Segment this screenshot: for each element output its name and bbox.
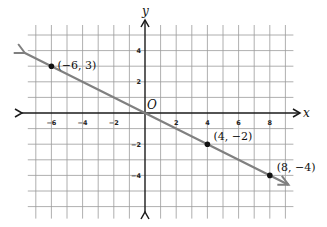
x-tick-label: −4 bbox=[78, 119, 88, 127]
x-tick-label: 6 bbox=[236, 119, 241, 127]
data-point bbox=[205, 141, 211, 147]
data-point bbox=[49, 63, 55, 69]
y-tick-label: 2 bbox=[136, 78, 141, 86]
plotted-line bbox=[25, 53, 289, 185]
x-tick-label: 4 bbox=[205, 119, 210, 127]
y-tick-label: −4 bbox=[131, 172, 141, 180]
y-tick-label: −2 bbox=[131, 141, 141, 149]
coordinate-graph: −6−4−2246842−2−4 (−6, 3)(4, −2)(8, −4) x… bbox=[0, 0, 327, 227]
data-point-label: (4, −2) bbox=[213, 130, 252, 143]
x-tick-label: 2 bbox=[174, 119, 179, 127]
x-axis-label: x bbox=[303, 106, 310, 120]
x-tick-label: −6 bbox=[46, 119, 56, 127]
origin-label: O bbox=[147, 98, 157, 112]
data-point-label: (−6, 3) bbox=[57, 59, 96, 72]
x-tick-label: 8 bbox=[268, 119, 273, 127]
data-points: (−6, 3)(4, −2)(8, −4) bbox=[49, 59, 316, 178]
data-point bbox=[267, 173, 273, 179]
data-point-label: (8, −4) bbox=[277, 161, 316, 174]
x-tick-label: −2 bbox=[109, 119, 119, 127]
y-tick-label: 4 bbox=[136, 47, 141, 55]
y-axis-label: y bbox=[141, 4, 149, 18]
